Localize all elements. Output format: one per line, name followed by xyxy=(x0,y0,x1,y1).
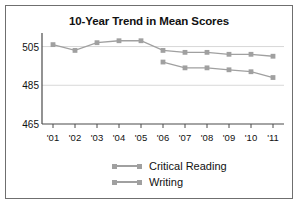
legend-item-label: Writing xyxy=(142,176,183,188)
data-point-marker xyxy=(227,67,232,72)
data-point-marker xyxy=(139,38,144,43)
x-axis-tick-label: '11 xyxy=(261,132,285,143)
chart-title: 10-Year Trend in Mean Scores xyxy=(6,15,292,27)
data-point-marker xyxy=(161,48,166,53)
x-axis-tick-label: '10 xyxy=(239,132,263,143)
y-axis-tick-label: 465 xyxy=(7,119,39,130)
legend-item-label: Critical Reading xyxy=(142,160,227,172)
y-axis-tick-labels: 465485505 xyxy=(6,33,39,124)
data-point-marker xyxy=(227,52,232,57)
data-point-marker xyxy=(249,69,254,74)
data-point-marker xyxy=(205,50,210,55)
data-point-marker xyxy=(73,48,78,53)
x-axis-tick-label: '06 xyxy=(151,132,175,143)
legend-line xyxy=(115,181,139,183)
x-axis-tick-label: '08 xyxy=(195,132,219,143)
x-axis-tick-label: '09 xyxy=(217,132,241,143)
y-axis-tick-label: 505 xyxy=(7,41,39,52)
legend-marker-icon xyxy=(137,164,142,169)
data-point-marker xyxy=(95,40,100,45)
x-axis-tick-labels: '01'02'03'04'05'06'07'08'09'10'11 xyxy=(42,132,284,146)
legend-swatch-icon xyxy=(112,177,142,187)
x-axis-tick-label: '02 xyxy=(63,132,87,143)
legend-swatch-icon xyxy=(112,161,142,171)
data-point-marker xyxy=(51,42,56,47)
data-point-marker xyxy=(183,50,188,55)
plot-area xyxy=(42,33,284,124)
data-point-marker xyxy=(249,52,254,57)
x-axis-tick-label: '03 xyxy=(85,132,109,143)
chart-figure: 10-Year Trend in Mean Scores 465485505 '… xyxy=(5,5,293,199)
legend-line xyxy=(115,165,139,167)
data-point-marker xyxy=(271,54,276,59)
y-axis-tick-label: 485 xyxy=(7,80,39,91)
chart-canvas xyxy=(42,33,284,124)
x-axis-tick-label: '05 xyxy=(129,132,153,143)
data-point-marker xyxy=(205,65,210,70)
series-line xyxy=(163,62,273,77)
legend-marker-icon xyxy=(137,180,142,185)
data-point-marker xyxy=(183,65,188,70)
legend-marker-icon xyxy=(112,164,117,169)
x-axis-tick-label: '07 xyxy=(173,132,197,143)
data-point-marker xyxy=(161,60,166,65)
chart-legend: Critical ReadingWriting xyxy=(112,158,272,190)
data-point-marker xyxy=(117,38,122,43)
legend-marker-icon xyxy=(112,180,117,185)
x-axis-tick-label: '01 xyxy=(41,132,65,143)
x-axis-tick-label: '04 xyxy=(107,132,131,143)
legend-item[interactable]: Critical Reading xyxy=(112,158,272,174)
data-point-marker xyxy=(271,75,276,80)
legend-item[interactable]: Writing xyxy=(112,174,272,190)
